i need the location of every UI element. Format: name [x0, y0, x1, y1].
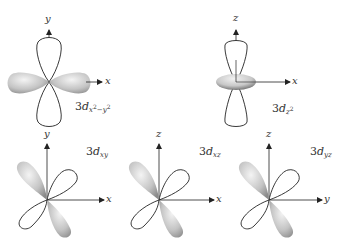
- label-d: d: [317, 145, 324, 158]
- axis-label-z: z: [156, 128, 161, 139]
- axis-label-z: z: [233, 12, 238, 23]
- orbital-label-dxz: 3dxz: [199, 145, 221, 159]
- label-prefix: 3: [75, 100, 82, 113]
- label-prefix: 3: [272, 102, 279, 115]
- label-sup: 2: [107, 103, 111, 110]
- orbital-label-dyz: 3dyz: [310, 145, 332, 159]
- label-sub: yz: [324, 151, 332, 159]
- label-sub: xz: [213, 151, 221, 159]
- axis-label-y: y: [324, 193, 330, 204]
- label-prefix: 3: [199, 145, 206, 158]
- label-d: d: [93, 145, 100, 158]
- label-d: d: [82, 100, 89, 113]
- label-prefix: 3: [86, 145, 93, 158]
- axis-label-x: x: [105, 75, 111, 86]
- axis-label-y: y: [44, 128, 50, 139]
- axis-label-y: y: [45, 13, 51, 24]
- label-prefix: 3: [310, 145, 317, 158]
- label-sub-mid: −y: [97, 106, 107, 114]
- label-sub: xy: [100, 151, 108, 159]
- label-d: d: [206, 145, 213, 158]
- axis-label-x: x: [216, 193, 222, 204]
- orbital-label-dz2: 3dz2: [272, 102, 294, 116]
- d-orbital-diagram: [0, 0, 343, 242]
- orbital-label-dxy: 3dxy: [86, 145, 108, 159]
- axis-label-z: z: [266, 128, 271, 139]
- orbital-label-dx2-y2: 3dx2−y2: [75, 100, 110, 114]
- axis-label-x: x: [292, 75, 298, 86]
- label-d: d: [279, 102, 286, 115]
- label-sup: 2: [290, 105, 294, 112]
- axis-label-x: x: [106, 193, 112, 204]
